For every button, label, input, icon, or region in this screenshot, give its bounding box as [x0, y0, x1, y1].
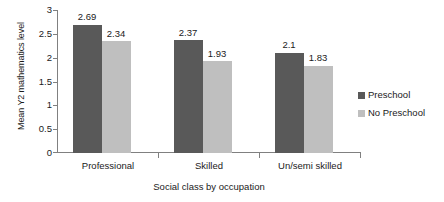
bar-group-skilled: 2.37 1.93: [159, 10, 260, 153]
y-tick-label: 1: [30, 101, 52, 111]
y-axis-tick-labels: 3 2.5 2 1.5 1 0.5 0: [30, 0, 52, 202]
legend-swatch-icon: [358, 110, 365, 117]
bar-value-label: 2.69: [67, 12, 107, 22]
y-axis-title: Mean Y2 mathematics level: [14, 0, 28, 152]
bar-professional-preschool[interactable]: [73, 25, 102, 153]
bar-value-label: 2.34: [96, 29, 136, 39]
x-axis-separator-tick: [360, 153, 361, 158]
bar-chart: Mean Y2 mathematics level 3 2.5 2 1.5 1 …: [0, 0, 444, 202]
x-axis-separator-tick: [158, 153, 159, 158]
legend-item-preschool[interactable]: Preschool: [358, 86, 444, 104]
bar-skilled-no-preschool[interactable]: [203, 61, 232, 153]
bar-value-label: 1.93: [197, 49, 237, 59]
bar-group-un-semi-skilled: 2.1 1.83: [260, 10, 361, 153]
y-tick-label: 3: [30, 5, 52, 15]
bar-value-label: 1.83: [298, 53, 338, 63]
legend-swatch-icon: [358, 92, 365, 99]
legend-label: Preschool: [368, 90, 410, 100]
bar-group-professional: 2.69 2.34: [58, 10, 159, 153]
bar-value-label: 2.1: [269, 40, 309, 50]
y-tick-label: 0: [30, 148, 52, 158]
legend-item-no-preschool[interactable]: No Preschool: [358, 104, 444, 122]
bar-professional-no-preschool[interactable]: [102, 41, 131, 153]
y-tick-label: 1.5: [30, 77, 52, 87]
bar-un-semi-skilled-preschool[interactable]: [275, 53, 304, 153]
legend: Preschool No Preschool: [358, 86, 444, 122]
x-axis-title: Social class by occupation: [57, 182, 361, 192]
y-tick-label: 2.5: [30, 29, 52, 39]
plot-area: 2.69 2.34 2.37 1.93 2.1 1.83: [58, 10, 361, 153]
y-tick-label: 2: [30, 53, 52, 63]
x-axis-separator-tick: [259, 153, 260, 158]
y-tick-label: 0.5: [30, 124, 52, 134]
bar-un-semi-skilled-no-preschool[interactable]: [304, 66, 333, 153]
legend-label: No Preschool: [368, 108, 425, 118]
bar-value-label: 2.37: [168, 28, 208, 38]
x-axis-category-label: Un/semi skilled: [240, 161, 380, 171]
